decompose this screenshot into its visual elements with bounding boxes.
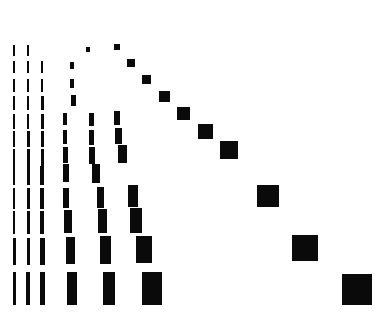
hinton-cell-r4-c3 bbox=[41, 96, 44, 110]
hinton-cell-r6-c4 bbox=[63, 130, 67, 144]
hinton-cell-r4-c5 bbox=[71, 95, 76, 106]
hinton-cell-r12-c3 bbox=[40, 272, 45, 305]
hinton-cell-r6-c12 bbox=[198, 124, 213, 139]
hinton-cell-r11-c2 bbox=[27, 238, 30, 265]
hinton-cell-r10-c6 bbox=[130, 208, 142, 233]
hinton-cell-r1-c8 bbox=[114, 44, 120, 50]
hinton-cell-r1-c1 bbox=[13, 45, 15, 56]
hinton-cell-r1-c2 bbox=[27, 45, 29, 56]
hinton-cell-r7-c1 bbox=[13, 149, 15, 166]
hinton-cell-r1-c5 bbox=[86, 47, 90, 52]
hinton-cell-r11-c6 bbox=[136, 236, 152, 263]
hinton-cell-r2-c5 bbox=[70, 62, 74, 69]
hinton-cell-r11-c3 bbox=[40, 238, 45, 265]
hinton-cell-r8-c1 bbox=[13, 166, 15, 185]
hinton-cell-r4-c2 bbox=[27, 96, 29, 110]
hinton-cell-r6-c3 bbox=[41, 131, 44, 147]
hinton-cell-r5-c6 bbox=[89, 113, 94, 126]
hinton-cell-r9-c2 bbox=[27, 188, 30, 209]
hinton-cell-r9-c5 bbox=[97, 187, 104, 208]
hinton-cell-r5-c7 bbox=[114, 111, 120, 125]
hinton-cell-r10-c1 bbox=[13, 211, 15, 234]
hinton-cell-r10-c2 bbox=[27, 211, 30, 234]
hinton-cell-r3-c2 bbox=[27, 79, 29, 92]
hinton-cell-r11-c1 bbox=[13, 238, 16, 265]
hinton-cell-r9-c3 bbox=[40, 188, 44, 209]
hinton-cell-r8-c2 bbox=[27, 166, 30, 185]
hinton-cell-r11-c5 bbox=[100, 236, 111, 264]
hinton-cell-r2-c1 bbox=[13, 61, 15, 73]
hinton-cell-r6-c6 bbox=[89, 130, 94, 145]
hinton-cell-r7-c3 bbox=[41, 149, 44, 166]
hinton-cell-r9-c4 bbox=[63, 188, 69, 208]
hinton-cell-r4-c11 bbox=[159, 91, 170, 102]
hinton-cell-r6-c1 bbox=[13, 131, 15, 147]
hinton-cell-r6-c2 bbox=[27, 131, 30, 147]
hinton-cell-r12-c12 bbox=[342, 274, 372, 305]
hinton-cell-r7-c7 bbox=[118, 145, 127, 163]
hinton-cell-r10-c3 bbox=[40, 211, 44, 234]
hinton-diagram-figure bbox=[0, 0, 382, 316]
hinton-cell-r7-c6 bbox=[89, 147, 95, 164]
hinton-cell-r3-c10 bbox=[142, 75, 151, 84]
plot-area bbox=[0, 0, 382, 316]
hinton-cell-r5-c4 bbox=[63, 113, 67, 125]
hinton-cell-r12-c2 bbox=[26, 272, 30, 305]
hinton-cell-r9-c12 bbox=[257, 185, 279, 207]
hinton-cell-r8-c4 bbox=[63, 164, 69, 182]
hinton-cell-r9-c1 bbox=[13, 188, 15, 209]
hinton-cell-r6-c7 bbox=[115, 128, 122, 144]
hinton-cell-r2-c3 bbox=[41, 61, 43, 73]
hinton-cell-r5-c3 bbox=[41, 114, 44, 129]
hinton-cell-r11-c12 bbox=[292, 235, 318, 261]
hinton-cell-r5-c12 bbox=[177, 107, 190, 120]
hinton-cell-r12-c4 bbox=[67, 272, 77, 305]
hinton-cell-r12-c6 bbox=[142, 272, 162, 305]
hinton-cell-r9-c6 bbox=[128, 185, 138, 207]
hinton-cell-r10-c5 bbox=[98, 209, 107, 233]
hinton-cell-r7-c12 bbox=[220, 141, 238, 159]
hinton-cell-r8-c3 bbox=[40, 166, 44, 185]
hinton-cell-r4-c1 bbox=[13, 96, 15, 110]
hinton-cell-r8-c6 bbox=[92, 164, 100, 183]
hinton-cell-r5-c1 bbox=[13, 114, 15, 129]
hinton-cell-r11-c4 bbox=[66, 237, 75, 264]
hinton-cell-r2-c2 bbox=[27, 61, 29, 73]
hinton-cell-r3-c3 bbox=[41, 79, 43, 92]
hinton-cell-r5-c2 bbox=[27, 114, 29, 129]
hinton-cell-r2-c9 bbox=[127, 59, 135, 67]
hinton-cell-r12-c5 bbox=[103, 272, 115, 305]
hinton-cell-r3-c5 bbox=[70, 79, 74, 88]
hinton-cell-r7-c2 bbox=[27, 149, 30, 166]
hinton-cell-r3-c1 bbox=[13, 79, 15, 92]
hinton-cell-r12-c1 bbox=[13, 272, 16, 305]
hinton-cell-r7-c4 bbox=[63, 147, 68, 163]
hinton-cell-r10-c4 bbox=[64, 210, 72, 233]
